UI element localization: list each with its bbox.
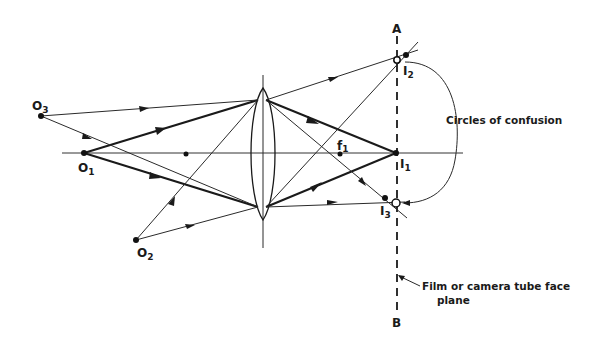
arrow-marker: [155, 127, 166, 135]
confusion-bracket-curve: [404, 62, 457, 203]
label-film-plane-line1: Film or camera tube face: [422, 280, 570, 292]
arrow-marker: [168, 196, 175, 206]
axis-point: [184, 152, 189, 157]
ray-o3-lower: [41, 116, 258, 207]
ray-o1-lower: [84, 153, 258, 207]
label-o3: O3: [32, 99, 48, 115]
label-i1: I1: [400, 157, 411, 173]
label-f1: f1: [337, 139, 349, 154]
ray-o3-upper: [41, 100, 258, 116]
label-o2: O2: [137, 246, 153, 262]
image-point-i1: [393, 150, 399, 156]
ray-o2-lower: [136, 207, 258, 240]
label-o1: O1: [78, 161, 94, 177]
image-point-i3: [382, 195, 388, 201]
confusion-circle-i2: [394, 57, 400, 63]
confusion-circle-i3: [392, 199, 400, 207]
label-i3: I3: [380, 204, 391, 220]
arrow-marker: [328, 77, 338, 82]
ray-i1-lower: [266, 153, 396, 207]
arrow-marker: [139, 106, 149, 112]
label-plane-b: B: [392, 316, 401, 330]
label-i2: I2: [403, 64, 414, 80]
object-point-o1: [81, 150, 87, 156]
optics-diagram: A B O3 O1 O2 f1 I1 I2 I3 Circles of conf…: [0, 0, 591, 344]
ray-i1-upper: [266, 100, 396, 153]
image-point-i2: [403, 52, 409, 58]
object-point-o2: [133, 237, 139, 243]
ray-i2-lower: [266, 42, 418, 207]
arrow-marker: [402, 200, 410, 206]
label-plane-a: A: [392, 22, 402, 36]
label-circles-of-confusion: Circles of confusion: [446, 114, 562, 126]
label-film-plane-line2: plane: [437, 294, 470, 306]
arrow-marker: [310, 182, 322, 192]
ray-o2-upper: [136, 100, 258, 240]
arrow-marker: [82, 133, 92, 139]
